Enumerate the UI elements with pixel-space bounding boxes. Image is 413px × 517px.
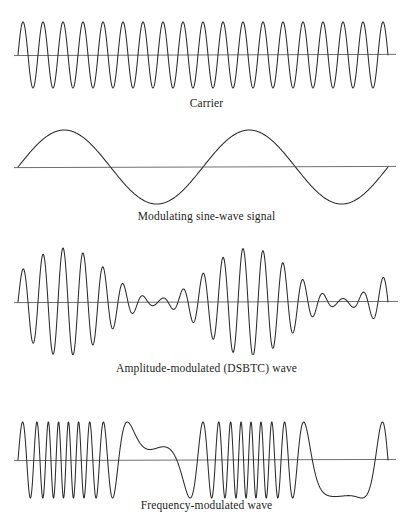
panel-carrier: Carrier (0, 14, 413, 94)
caption-amplitude-modulated: Amplitude-modulated (DSBTC) wave (0, 361, 413, 375)
modulating-signal-axis-line (14, 166, 396, 167)
caption-carrier: Carrier (0, 96, 413, 110)
amplitude-modulated-waveform (0, 243, 413, 355)
panel-frequency-modulated: Frequency-modulated wave (0, 418, 413, 502)
modulating-signal-waveform (0, 122, 413, 206)
frequency-modulated-waveform (0, 418, 413, 502)
modulation-figure: Carrier Modulating sine-wave signal Ampl… (0, 0, 413, 517)
amplitude-modulated-axis-line (14, 301, 398, 302)
carrier-waveform (0, 14, 413, 94)
panel-amplitude-modulated: Amplitude-modulated (DSBTC) wave (0, 243, 413, 355)
caption-modulating-signal: Modulating sine-wave signal (0, 209, 413, 223)
caption-frequency-modulated: Frequency-modulated wave (0, 498, 413, 512)
panel-modulating-signal: Modulating sine-wave signal (0, 122, 413, 206)
carrier-axis-line (14, 54, 396, 55)
